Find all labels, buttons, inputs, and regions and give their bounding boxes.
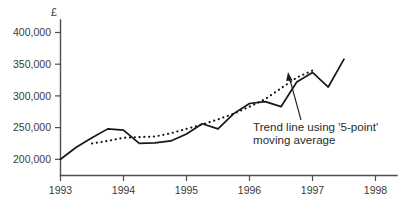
y-tick-label-200000: 200,000 — [13, 153, 51, 165]
y-tick-label-400000: 400,000 — [13, 26, 51, 38]
x-tick-label-1993: 1993 — [49, 184, 73, 196]
callout-text-line-2: moving average — [253, 133, 336, 146]
x-tick-label-1995: 1995 — [175, 184, 199, 196]
y-tick-label-250000: 250,000 — [13, 121, 51, 133]
y-tick-label-300000: 300,000 — [13, 90, 51, 102]
x-tick-label-1997: 1997 — [301, 184, 325, 196]
callout-arrowhead-icon — [286, 72, 292, 81]
y-tick-label-350000: 350,000 — [13, 58, 51, 70]
x-tick-label-1998: 1998 — [364, 184, 388, 196]
y-axis: 400,000 350,000 300,000 250,000 200,000 — [13, 20, 60, 176]
y-axis-unit-label: £ — [51, 6, 57, 18]
x-tick-label-1996: 1996 — [238, 184, 262, 196]
trend-line-callout: Trend line using '5-point' moving averag… — [253, 72, 378, 146]
x-axis: 1993 1994 1995 1996 1997 1998 — [49, 176, 397, 197]
line-chart-svg: £ 400,000 350,000 300,000 250,000 200,00… — [0, 0, 398, 215]
chart-figure: £ 400,000 350,000 300,000 250,000 200,00… — [0, 0, 398, 215]
callout-text-line-1: Trend line using '5-point' — [253, 120, 378, 133]
x-tick-label-1994: 1994 — [112, 184, 136, 196]
